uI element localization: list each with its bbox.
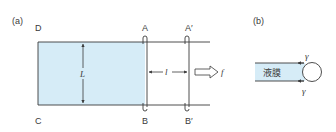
force-label-f: f (221, 67, 225, 77)
force-arrow-icon (195, 66, 218, 78)
panel-b-tag: (b) (253, 16, 264, 26)
panel-a: (a) D C L A B A′ B′ l f (12, 16, 225, 126)
film-label: 液膜 (263, 67, 281, 78)
liquid-film-region (38, 42, 145, 105)
panel-a-tag: (a) (12, 16, 23, 26)
surface-tension-figure: (a) D C L A B A′ B′ l f (0, 0, 336, 132)
bar-label-b: B (142, 116, 148, 126)
corner-label-d: D (35, 23, 42, 33)
bar-label-a-prime: A′ (185, 23, 193, 33)
tension-label-bottom: γ (302, 86, 306, 96)
corner-label-c: C (35, 116, 42, 126)
bar-label-b-prime: B′ (185, 116, 193, 126)
width-label-L: L (79, 69, 85, 79)
displacement-label-l: l (165, 67, 168, 77)
wire-cross-section (303, 63, 322, 82)
panel-b: (b) 液膜 γ γ (253, 16, 322, 96)
tension-label-top: γ (305, 51, 309, 61)
movable-bar-a2b2: A′ B′ (185, 23, 193, 126)
bar-label-a: A (142, 23, 148, 33)
